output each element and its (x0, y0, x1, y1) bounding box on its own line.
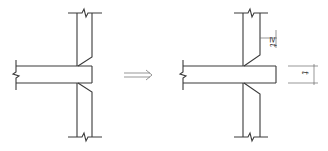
joint-detail-diagram: ≥t t (0, 0, 328, 151)
top-break-line-left (68, 9, 102, 17)
top-break-line-right (234, 9, 268, 17)
left-break-line-r (180, 60, 186, 90)
wall-right-edge-lower-haunch (78, 83, 92, 137)
wall-right-edge-upper-haunch-r (244, 13, 260, 66)
left-break-line (13, 60, 19, 90)
wall-right-edge-lower-haunch-r (244, 83, 260, 137)
wall-right-edge-upper-haunch (78, 13, 92, 66)
bottom-break-line-right (234, 133, 268, 141)
ge-t-label: ≥t (268, 36, 278, 48)
bottom-break-line-left (68, 133, 102, 141)
left-detail (13, 9, 102, 141)
transform-arrow-icon (124, 70, 152, 80)
t-label: t (300, 71, 310, 75)
right-detail: ≥t t (180, 9, 318, 141)
